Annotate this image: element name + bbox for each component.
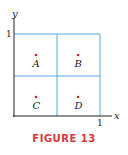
x-axis-label: x [114, 110, 120, 121]
y-axis-label: y [11, 8, 18, 19]
unit-square-diagram: y x 1 1 A B C D [0, 0, 128, 155]
region-label-d: D [74, 100, 83, 111]
point-a [35, 54, 38, 57]
axes [13, 18, 112, 117]
region-label-c: C [33, 100, 41, 111]
point-c [35, 96, 38, 99]
figure-caption: FIGURE 13 [0, 133, 128, 144]
point-d [77, 96, 80, 99]
x-tick-1: 1 [97, 118, 103, 128]
y-tick-1: 1 [6, 29, 12, 39]
point-b [77, 54, 80, 57]
region-label-a: A [32, 58, 40, 69]
grid [14, 34, 100, 116]
region-label-b: B [74, 58, 82, 69]
